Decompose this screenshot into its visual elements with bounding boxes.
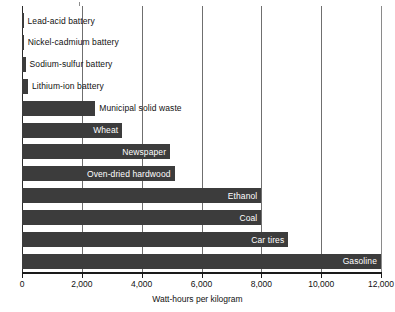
bar-label-lithium-ion-battery: Lithium-ion battery	[32, 82, 104, 91]
bar-row: Newspaper	[22, 144, 381, 159]
bar-nickel-cadmium-battery	[22, 35, 24, 50]
x-axis-title: Watt-hours per kilogram	[0, 295, 395, 304]
bar-sodium-sulfur-battery	[22, 57, 26, 72]
tick-mark-4000	[142, 274, 143, 278]
bar-row: Car tires	[22, 232, 381, 247]
tick-mark-12000	[381, 274, 382, 278]
tick-mark-6000	[202, 274, 203, 278]
tick-mark-8000	[261, 274, 262, 278]
bar-row: Oven-dried hardwood	[22, 166, 381, 181]
tick-mark-0	[22, 274, 23, 278]
bar-label-wheat: Wheat	[93, 126, 118, 135]
tick-label-0: 0	[20, 280, 25, 289]
tick-label-6000: 6,000	[191, 280, 212, 289]
bar-lithium-ion-battery	[22, 79, 28, 94]
bar-row: Ethanol	[22, 188, 381, 203]
bar-label-car-tires: Car tires	[251, 235, 284, 244]
bar-row: Nickel-cadmium battery	[22, 35, 381, 50]
bar-gasoline	[22, 254, 381, 269]
energy-density-bar-chart: Lead-acid batteryNickel-cadmium batteryS…	[0, 0, 395, 312]
bar-label-newspaper: Newspaper	[122, 148, 166, 157]
bar-label-lead-acid-battery: Lead-acid battery	[28, 16, 95, 25]
tick-label-8000: 8,000	[251, 280, 272, 289]
bar-row: Coal	[22, 210, 381, 225]
bar-row: Gasoline	[22, 254, 381, 269]
bar-row: Wheat	[22, 123, 381, 138]
tick-label-12000: 12,000	[368, 280, 394, 289]
gridline-12000	[381, 6, 382, 272]
bar-label-ethanol: Ethanol	[228, 191, 258, 200]
bar-label-nickel-cadmium-battery: Nickel-cadmium battery	[28, 38, 119, 47]
bar-lead-acid-battery	[22, 13, 24, 28]
bar-label-coal: Coal	[239, 213, 257, 222]
bar-row: Municipal solid waste	[22, 101, 381, 116]
tick-label-2000: 2,000	[71, 280, 92, 289]
bar-ethanol	[22, 188, 261, 203]
tick-label-10000: 10,000	[308, 280, 334, 289]
tick-mark-10000	[321, 274, 322, 278]
bar-row: Lithium-ion battery	[22, 79, 381, 94]
bar-municipal-solid-waste	[22, 101, 95, 116]
tick-mark-2000	[82, 274, 83, 278]
bar-label-municipal-solid-waste: Municipal solid waste	[99, 104, 181, 113]
bar-label-oven-dried-hardwood: Oven-dried hardwood	[87, 170, 171, 179]
bar-row: Sodium-sulfur battery	[22, 57, 381, 72]
bar-label-sodium-sulfur-battery: Sodium-sulfur battery	[30, 60, 113, 69]
plot-area: Lead-acid batteryNickel-cadmium batteryS…	[22, 6, 381, 272]
tick-label-4000: 4,000	[131, 280, 152, 289]
bar-label-gasoline: Gasoline	[343, 257, 377, 266]
bar-row: Lead-acid battery	[22, 13, 381, 28]
bar-car-tires	[22, 232, 288, 247]
bar-coal	[22, 210, 261, 225]
